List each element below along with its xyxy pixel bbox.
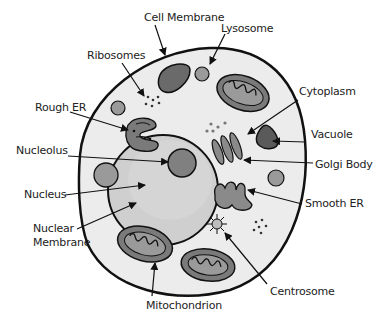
label-smooth-er: Smooth ER <box>305 197 364 210</box>
vesicle-left-top <box>111 101 125 115</box>
lysosome <box>195 67 209 81</box>
label-lysosome: Lysosome <box>221 22 273 35</box>
label-nucleus: Nucleus <box>24 188 66 201</box>
vesicle-left-mid <box>94 163 118 187</box>
label-nucleolus: Nucleolus <box>16 144 68 157</box>
label-nuclear-membrane-1: Nuclear <box>33 222 74 235</box>
label-centrosome: Centrosome <box>270 285 335 298</box>
centrosome <box>207 214 227 234</box>
label-mitochondrion: Mitochondrion <box>146 299 222 312</box>
label-golgi-body: Golgi Body <box>315 158 373 171</box>
label-cell-membrane: Cell Membrane <box>144 11 224 24</box>
label-cytoplasm: Cytoplasm <box>299 85 356 98</box>
nucleolus <box>168 149 196 177</box>
label-vacuole: Vacuole <box>311 128 353 141</box>
vesicle-right <box>268 170 284 186</box>
label-nuclear-membrane-2: Membrane <box>33 236 90 249</box>
label-ribosomes: Ribosomes <box>87 49 145 62</box>
label-rough-er: Rough ER <box>35 101 86 114</box>
